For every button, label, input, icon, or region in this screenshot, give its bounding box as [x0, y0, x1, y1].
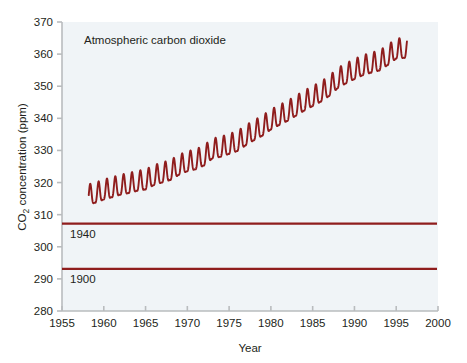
y-axis-title-suffix: concentration (ppm): [16, 103, 28, 209]
y-tick-label: 330: [34, 144, 53, 156]
y-tick-label: 340: [34, 112, 53, 124]
x-tick-label: 1985: [300, 317, 326, 329]
x-tick-label: 1965: [133, 317, 159, 329]
y-tick-label: 310: [34, 209, 53, 221]
y-tick-label: 360: [34, 48, 53, 60]
y-tick-label: 290: [34, 273, 53, 285]
reference-line-label: 1900: [70, 273, 96, 285]
chart-figure: 280290300310320330340350360370 195519601…: [0, 0, 467, 363]
y-axis-title: CO2 concentration (ppm): [16, 103, 31, 231]
y-tick-label: 280: [34, 305, 53, 317]
x-axis-title: Year: [238, 342, 261, 354]
y-axis-title-prefix: CO: [16, 213, 28, 230]
x-tick-label: 2000: [425, 317, 451, 329]
x-tick-label: 1990: [342, 317, 368, 329]
x-tick-label: 1970: [175, 317, 201, 329]
y-tick-label: 370: [34, 16, 53, 28]
chart-title: Atmospheric carbon dioxide: [84, 34, 226, 46]
y-tick-label: 300: [34, 241, 53, 253]
y-tick-label: 320: [34, 177, 53, 189]
reference-line-label: 1940: [70, 228, 96, 240]
x-tick-label: 1960: [91, 317, 117, 329]
x-tick-label: 1955: [49, 317, 75, 329]
x-tick-label: 1975: [216, 317, 242, 329]
y-tick-label: 350: [34, 80, 53, 92]
x-tick-label: 1995: [383, 317, 409, 329]
y-axis-ticks: 280290300310320330340350360370: [34, 16, 62, 317]
co2-line-chart: 280290300310320330340350360370 195519601…: [0, 0, 467, 363]
x-tick-label: 1980: [258, 317, 284, 329]
